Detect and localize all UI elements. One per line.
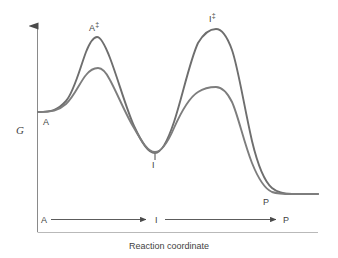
- y-axis-label: G: [16, 124, 24, 136]
- energy-diagram-figure: G A A‡ I I‡ P A I P Reaction coordinate: [0, 0, 338, 258]
- pathway-label-a: A: [41, 215, 47, 225]
- label-transition-state-2-sup: ‡: [212, 12, 216, 19]
- pathway-label-p: P: [283, 215, 289, 225]
- label-transition-state-1: A‡: [89, 24, 99, 33]
- energy-curve-catalyzed: [38, 68, 318, 194]
- label-product-p: P: [263, 198, 269, 207]
- label-reactant-a: A: [43, 118, 49, 127]
- label-intermediate-i: I: [152, 161, 155, 170]
- x-axis-caption: Reaction coordinate: [0, 241, 338, 251]
- pathway-label-i: I: [155, 215, 158, 225]
- energy-curve-uncatalyzed: [38, 29, 318, 194]
- label-transition-state-1-sup: ‡: [95, 21, 99, 28]
- label-transition-state-2: I‡: [209, 15, 216, 24]
